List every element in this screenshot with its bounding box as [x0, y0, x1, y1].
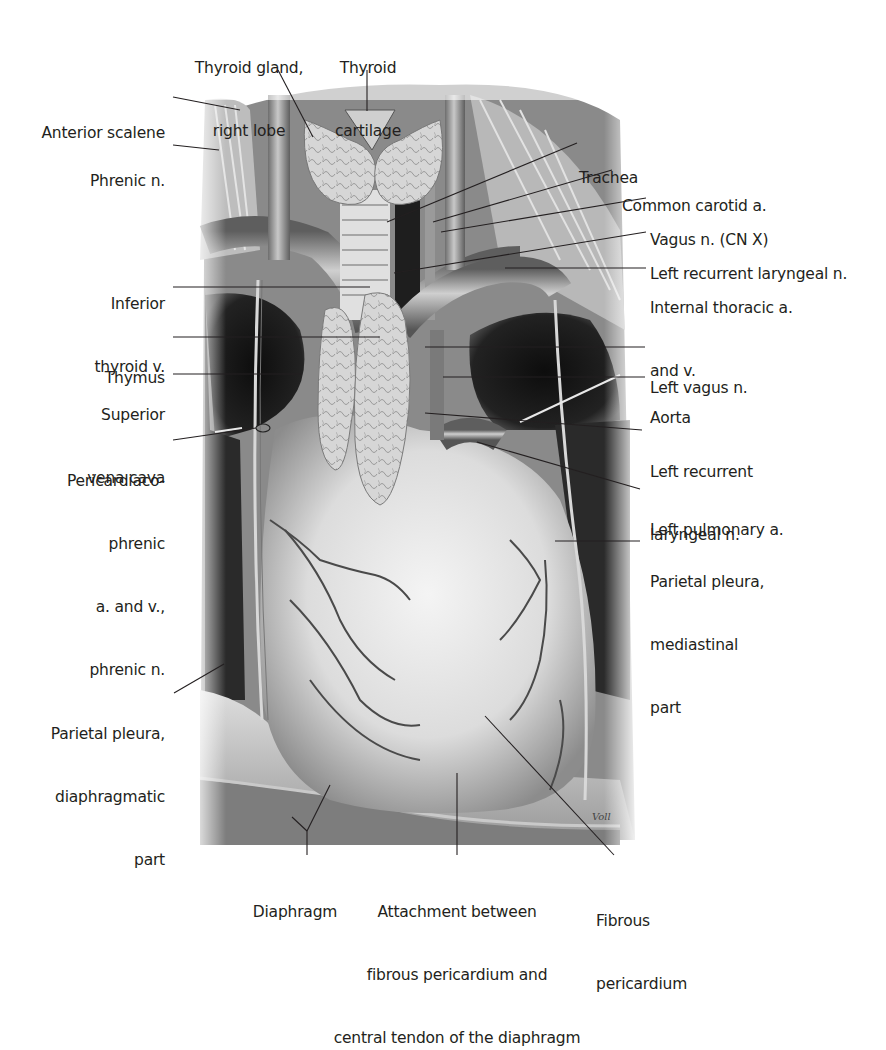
label-thyroid-cartilage: Thyroid cartilage [328, 16, 408, 163]
label-phrenic-n: Phrenic n. [0, 129, 165, 213]
artist-signature: Voll [592, 811, 611, 822]
label-fibrous-pericardium: Fibrous pericardium [596, 869, 687, 1016]
label-pericardiacophrenic: Pericardiaco- phrenic a. and v., phrenic… [0, 429, 165, 702]
label-thyroid-gland-right-lobe: Thyroid gland, right lobe [174, 16, 324, 163]
label-attachment: Attachment between fibrous pericardium a… [318, 860, 596, 1050]
label-parietal-pleura-mediastinal: Parietal pleura, mediastinal part [650, 530, 764, 740]
label-parietal-pleura-diaphragmatic: Parietal pleura, diaphragmatic part [0, 682, 165, 892]
illustration-plate: Voll [190, 60, 640, 850]
